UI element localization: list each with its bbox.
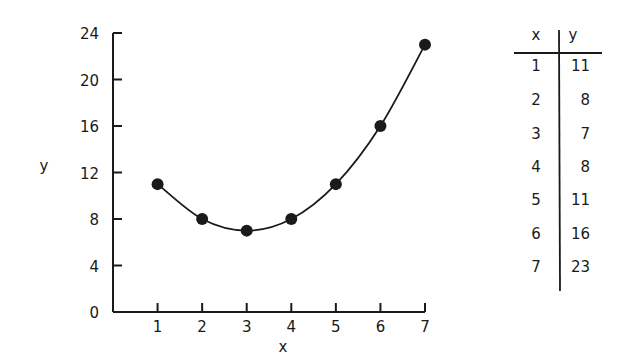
xy-data-table: xy111283748511616723 bbox=[0, 0, 633, 362]
table-cell-x: 5 bbox=[521, 191, 551, 209]
table-cell-y: 23 bbox=[560, 258, 590, 276]
table-cell-y: 11 bbox=[560, 57, 590, 75]
table-header-y: y bbox=[558, 26, 588, 44]
table-cell-y: 16 bbox=[560, 225, 590, 243]
table-cell-y: 11 bbox=[560, 191, 590, 209]
table-cell-x: 1 bbox=[521, 57, 551, 75]
table-header-x: x bbox=[521, 26, 551, 44]
table-cell-x: 2 bbox=[521, 91, 551, 109]
table-cell-y: 8 bbox=[560, 91, 590, 109]
table-cell-x: 3 bbox=[521, 125, 551, 143]
table-cell-x: 7 bbox=[521, 258, 551, 276]
table-cell-x: 6 bbox=[521, 225, 551, 243]
table-cell-x: 4 bbox=[521, 158, 551, 176]
table-cell-y: 8 bbox=[560, 158, 590, 176]
table-cell-y: 7 bbox=[560, 125, 590, 143]
